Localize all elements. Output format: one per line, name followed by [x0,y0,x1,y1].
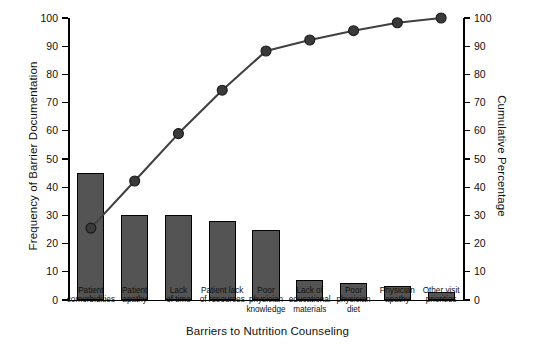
axis-tick-label: 80 [474,69,500,80]
cumulative-marker [436,13,446,23]
category-label-line: knowledge [241,305,291,314]
category-label-line: priorities [416,295,466,304]
category-label: Poorphysiciandiet [329,286,379,314]
category-label-line: Lack [154,286,204,295]
axis-tick [464,74,470,75]
category-label-line: Lack of [285,286,335,295]
axis-tick-label: 60 [474,125,500,136]
axis-tick [62,102,68,103]
axis-tick [62,158,68,159]
category-label-line: materials [285,305,335,314]
axis-tick [62,130,68,131]
axis-tick-label: 80 [32,69,58,80]
cumulative-marker [305,35,315,45]
axis-tick [62,271,68,272]
axis-tick [62,46,68,47]
cumulative-markers [86,13,446,233]
axis-tick-label: 10 [474,266,500,277]
axis-tick-label: 20 [32,238,58,249]
axis-tick [62,243,68,244]
axis-tick-label: 90 [32,41,58,52]
category-label-line: Other visit [416,286,466,295]
axis-tick [62,187,68,188]
category-label-line: Physician [372,286,422,295]
cumulative-marker [86,223,96,233]
axis-tick [464,243,470,244]
cumulative-marker [261,46,271,56]
category-label: Physicianapathy [372,286,422,305]
cumulative-marker [392,18,402,28]
axis-tick-label: 20 [474,238,500,249]
category-label: Patientcomorbidities [66,286,116,305]
axis-tick-label: 0 [474,295,500,306]
category-label-line: physician [241,295,291,304]
axis-tick-label: 70 [32,97,58,108]
category-label-line: Poor [241,286,291,295]
axis-tick-label: 60 [32,125,58,136]
axis-tick-label: 100 [32,13,58,24]
pareto-chart: Frequency of Barrier Documentation Cumul… [0,0,535,345]
axis-tick-label: 30 [32,210,58,221]
category-label-line: comorbidities [66,295,116,304]
cumulative-marker [217,85,227,95]
axis-tick-label: 30 [474,210,500,221]
axis-tick [62,17,68,18]
axis-tick [464,130,470,131]
category-label-line: of time [154,295,204,304]
category-label-line: Patient [110,286,160,295]
axis-tick-label: 10 [32,266,58,277]
axis-tick-label: 40 [474,182,500,193]
axis-tick-label: 90 [474,41,500,52]
axis-tick [62,215,68,216]
category-label: Lackof time [154,286,204,305]
axis-tick [464,187,470,188]
axis-tick-label: 100 [474,13,500,24]
axis-tick [464,215,470,216]
cumulative-marker [173,129,183,139]
category-label-line: Patient lack [197,286,247,295]
axis-tick [464,271,470,272]
category-label-line: apathy [110,295,160,304]
axis-tick [464,46,470,47]
category-label: Patientapathy [110,286,160,305]
axis-tick [464,102,470,103]
cumulative-line-series [69,18,463,300]
axis-tick-label: 50 [32,154,58,165]
axis-tick-label: 40 [32,182,58,193]
axis-tick-label: 50 [474,154,500,165]
category-label-line: of resources [197,295,247,304]
category-label: Patient lackof resources [197,286,247,305]
axis-tick-label: 0 [32,295,58,306]
plot-area: 0102030405060708090100 01020304050607080… [69,18,463,300]
category-label-line: apathy [372,295,422,304]
axis-tick [464,158,470,159]
category-label-line: Poor [329,286,379,295]
category-label-line: diet [329,305,379,314]
category-label: Other visitpriorities [416,286,466,305]
x-axis-title: Barriers to Nutrition Counseling [0,325,535,337]
axis-tick-label: 70 [474,97,500,108]
category-label: Lack ofeducationalmaterials [285,286,335,314]
axis-tick [62,74,68,75]
category-label: Poorphysicianknowledge [241,286,291,314]
cumulative-marker [349,26,359,36]
category-label-line: educational [285,295,335,304]
axis-tick [464,17,470,18]
category-label-line: Patient [66,286,116,295]
category-label-line: physician [329,295,379,304]
cumulative-marker [130,176,140,186]
